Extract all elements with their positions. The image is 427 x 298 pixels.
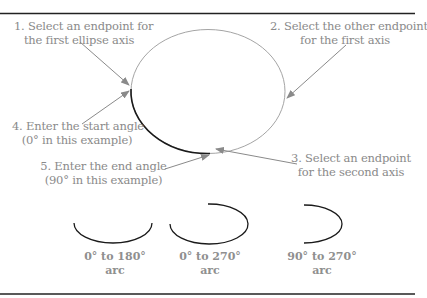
step-5-label: 5. Enter the end angle (90° in this exam… (36, 159, 171, 187)
step-4-label: 4. Enter the start angle (0° in this exa… (12, 119, 142, 147)
step-1-label: 1. Select an endpoint for the first elli… (14, 19, 144, 47)
example-arc-0-270 (170, 204, 248, 244)
step-2-label: 2. Select the other endpoint for the fir… (270, 19, 420, 47)
ellipse-arc-diagram: 1. Select an endpoint for the first elli… (0, 0, 427, 298)
arrow-step-3 (216, 149, 297, 164)
step-3-label: 3. Select an endpoint for the second axi… (286, 151, 416, 179)
example-caption-0-180: 0° to 180° arc (75, 250, 155, 278)
example-arc-0-180 (74, 223, 152, 243)
arrow-step-2 (287, 45, 346, 98)
arrow-step-1 (80, 42, 129, 85)
example-caption-90-270: 90° to 270° arc (282, 250, 362, 278)
arrow-step-5 (165, 155, 209, 169)
example-arc-90-270 (304, 205, 342, 243)
example-caption-0-270: 0° to 270° arc (170, 250, 250, 278)
